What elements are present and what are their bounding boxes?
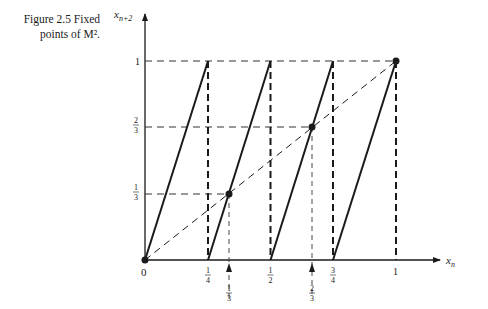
svg-text:4: 4 bbox=[331, 276, 335, 285]
svg-text:1: 1 bbox=[134, 183, 138, 192]
svg-text:2: 2 bbox=[134, 116, 138, 125]
fixed-point-1 bbox=[393, 58, 400, 65]
y-tick-1third: 1 3 bbox=[133, 183, 139, 202]
svg-text:2: 2 bbox=[310, 284, 314, 293]
svg-text:4: 4 bbox=[206, 276, 210, 285]
svg-text:1: 1 bbox=[227, 284, 231, 293]
svg-text:2: 2 bbox=[269, 276, 273, 285]
svg-text:3: 3 bbox=[134, 126, 138, 135]
branch-3 bbox=[271, 61, 334, 260]
fixed-point-0 bbox=[142, 257, 149, 264]
x-axis-label: xn bbox=[445, 254, 455, 269]
x-tick-half: 1 2 bbox=[268, 266, 274, 285]
branch-4 bbox=[333, 61, 396, 260]
svg-text:1: 1 bbox=[206, 266, 210, 275]
y-tick-one: 1 bbox=[135, 56, 140, 67]
svg-text:3: 3 bbox=[227, 294, 231, 303]
svg-text:1: 1 bbox=[269, 266, 273, 275]
fixed-point-1third bbox=[226, 191, 233, 198]
y-axis-label: xn+2 bbox=[113, 8, 132, 23]
origin-label: 0 bbox=[141, 266, 147, 278]
arrow-up-1third-icon bbox=[226, 263, 232, 272]
x-tick-one: 1 bbox=[393, 266, 398, 277]
arrow-up-2third-icon bbox=[309, 263, 315, 272]
branch-1 bbox=[145, 61, 208, 260]
svg-text:3: 3 bbox=[134, 193, 138, 202]
y-tick-2third: 2 3 bbox=[133, 116, 139, 135]
x-marker-2third: 2 3 bbox=[309, 284, 315, 303]
svg-text:3: 3 bbox=[310, 294, 314, 303]
svg-text:3: 3 bbox=[331, 266, 335, 275]
x-tick-quarter: 1 4 bbox=[205, 266, 211, 285]
fixed-point-2third bbox=[309, 124, 316, 131]
x-marker-1third: 1 3 bbox=[226, 284, 232, 303]
fixed-points-diagram: xn+2 xn 0 1 1 2 3 1 3 1 4 1 2 3 4 1 3 2 … bbox=[0, 0, 488, 309]
x-tick-3quarter: 3 4 bbox=[330, 266, 336, 285]
branch-2 bbox=[208, 61, 271, 260]
